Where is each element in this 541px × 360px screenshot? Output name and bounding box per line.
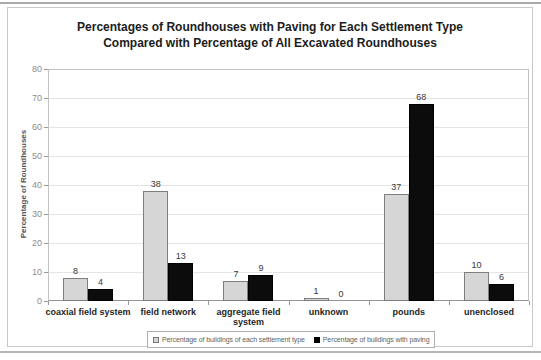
bar [409,104,434,301]
gridline [49,98,528,99]
legend-item-paving: Percentage of buildings with paving [314,336,430,343]
y-axis-tick [44,185,48,186]
bar [143,191,168,301]
y-axis-tick [44,243,48,244]
legend-label-paving: Percentage of buildings with paving [323,336,430,343]
bar [168,263,193,301]
x-axis-tick [449,301,450,305]
x-axis-tick [128,301,129,305]
bar [248,275,273,301]
bar-value-label: 4 [86,277,116,287]
x-axis-tick [48,301,49,305]
y-axis-tick-label: 60 [8,122,42,132]
chart-container: Percentages of Roundhouses with Paving f… [7,7,533,347]
bottom-divider [0,351,541,353]
y-axis-tick [44,156,48,157]
bar [63,278,88,301]
legend-swatch-gray-icon [153,337,159,343]
legend-label-settlement-type: Percentage of buildings of each settleme… [162,336,305,343]
gridline [49,156,528,157]
y-axis-tick-label: 50 [8,151,42,161]
y-axis-tick-label: 20 [8,238,42,248]
y-axis-tick-label: 40 [8,180,42,190]
legend: Percentage of buildings of each settleme… [147,331,435,348]
bar [384,194,409,301]
x-axis-tick [208,301,209,305]
y-axis-tick [44,127,48,128]
bar-value-label: 8 [61,266,91,276]
bar [88,289,113,301]
y-axis-tick-label: 0 [8,296,42,306]
x-category-label-line: unenclosed [439,307,539,317]
bar-value-label: 9 [246,263,276,273]
bar-value-label: 38 [141,179,171,189]
chart-title-line2: Compared with Percentage of All Excavate… [8,35,532,51]
bar [304,298,329,301]
gridline [49,243,528,244]
x-axis-tick [289,301,290,305]
y-axis-tick-label: 70 [8,93,42,103]
bar [464,272,489,301]
x-axis-tick [529,301,530,305]
y-axis-tick [44,98,48,99]
bar [223,281,248,301]
gridline [49,127,528,128]
y-axis-tick-label: 80 [8,64,42,74]
bar-value-label: 6 [486,272,516,282]
x-category-label: unenclosed [439,307,539,317]
bar-value-label: 0 [326,289,356,299]
y-axis-tick [44,69,48,70]
legend-swatch-black-icon [314,337,320,343]
bar-value-label: 10 [461,260,491,270]
gridline [49,185,528,186]
x-category-label-line: system [198,317,298,327]
top-divider [0,2,541,4]
y-axis-tick [44,214,48,215]
chart-title: Percentages of Roundhouses with Paving f… [8,19,532,51]
bar-value-label: 68 [406,92,436,102]
gridline [49,272,528,273]
y-axis-tick-label: 10 [8,267,42,277]
x-axis-tick [369,301,370,305]
y-axis-tick-label: 30 [8,209,42,219]
legend-item-settlement-type: Percentage of buildings of each settleme… [153,336,305,343]
gridline [49,214,528,215]
bar-value-label: 37 [381,182,411,192]
bar-value-label: 13 [166,251,196,261]
chart-title-line1: Percentages of Roundhouses with Paving f… [8,19,532,35]
bar [489,284,514,301]
y-axis-tick [44,272,48,273]
